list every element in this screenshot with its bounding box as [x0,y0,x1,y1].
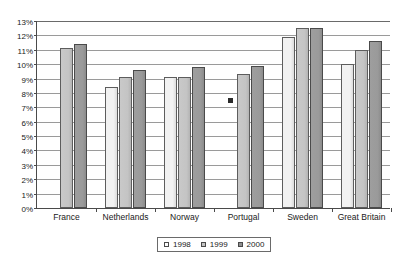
y-axis-tick-label: 0% [0,205,33,214]
legend-swatch-2000-icon [238,242,243,247]
x-axis-tick-label: Netherlands [103,212,149,223]
bar-1998 [341,64,354,208]
bar-1999 [237,74,250,208]
x-axis-tick [391,208,392,212]
bar-group [214,22,273,208]
y-axis-tick-label: 8% [0,89,33,98]
bar-1998 [164,77,177,208]
y-axis-tick-label: 11% [0,46,33,55]
legend-entry-2000[interactable]: 2000 [238,240,265,249]
stray-marker-icon [228,98,233,103]
bar-group [96,22,155,208]
legend-label: 2000 [247,240,265,249]
y-axis-tick-label: 3% [0,161,33,170]
y-axis-tick-label: 10% [0,61,33,70]
bar-1999 [119,77,132,208]
chart-legend: 199819992000 [157,237,271,252]
bar-1998 [105,87,118,208]
bar-1999 [60,48,73,208]
y-axis-tick-label: 2% [0,176,33,185]
bar-2000 [369,41,382,208]
x-axis-tick-label: Sweden [287,212,318,223]
bar-group [37,22,96,208]
bar-2000 [251,66,264,208]
y-axis-tick-label: 9% [0,75,33,84]
y-axis-tick-label: 6% [0,118,33,127]
legend-label: 1998 [173,240,191,249]
y-axis-tick-labels: 0%1%2%3%4%5%6%7%8%9%10%11%12%13% [0,22,33,209]
y-axis-tick-label: 4% [0,147,33,156]
legend-entry-1999[interactable]: 1999 [201,240,228,249]
bar-2000 [192,67,205,208]
bar-1998 [282,37,295,208]
y-axis-tick-label: 7% [0,104,33,113]
legend-entry-1998[interactable]: 1998 [164,240,191,249]
legend-label: 1999 [210,240,228,249]
bar-2000 [133,70,146,208]
y-axis-tick [34,208,37,209]
bar-group [155,22,214,208]
x-axis-tick-label: France [53,212,79,223]
x-axis-tick-label: Norway [170,212,199,223]
bar-2000 [74,44,87,208]
legend-swatch-1999-icon [201,242,206,247]
bar-chart: 0%1%2%3%4%5%6%7%8%9%10%11%12%13% FranceN… [0,0,412,270]
legend-swatch-1998-icon [164,242,169,247]
bar-1999 [355,50,368,208]
bar-1999 [296,28,309,208]
bar-group [273,22,332,208]
x-axis-tick-label: Portugal [228,212,260,223]
y-axis-tick-label: 12% [0,32,33,41]
y-axis-tick-label: 5% [0,133,33,142]
bars-layer [37,22,390,208]
bar-1999 [178,77,191,208]
bar-group [332,22,391,208]
y-axis-tick-label: 13% [0,18,33,27]
y-axis-tick-label: 1% [0,190,33,199]
x-axis-tick-label: Great Britain [338,212,386,223]
x-axis-tick-labels: FranceNetherlandsNorwayPortugalSwedenGre… [37,212,390,228]
bar-2000 [310,28,323,208]
